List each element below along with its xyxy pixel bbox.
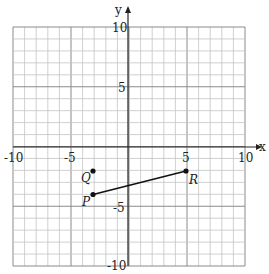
coordinate-plane: x y -10 -5 5 10 10 5 -5 -10 Q P R bbox=[0, 0, 269, 274]
point-q bbox=[90, 168, 95, 173]
y-tick-10: 10 bbox=[112, 21, 127, 35]
point-r-label: R bbox=[188, 173, 198, 187]
axes bbox=[13, 6, 262, 266]
y-axis-arrow-icon bbox=[125, 6, 131, 13]
point-q-label: Q bbox=[81, 171, 91, 185]
y-tick-neg5: -5 bbox=[113, 201, 125, 215]
point-p bbox=[90, 192, 95, 197]
y-axis-label: y bbox=[114, 3, 122, 17]
x-axis-label: x bbox=[259, 140, 266, 154]
x-tick-neg5: -5 bbox=[64, 151, 76, 165]
x-tick-10: 10 bbox=[238, 151, 253, 165]
x-tick-5: 5 bbox=[182, 151, 190, 165]
point-r bbox=[183, 168, 188, 173]
point-p-label: P bbox=[81, 195, 91, 209]
y-tick-5: 5 bbox=[118, 81, 126, 95]
y-tick-neg10: -10 bbox=[107, 259, 126, 273]
x-tick-neg10: -10 bbox=[4, 151, 23, 165]
